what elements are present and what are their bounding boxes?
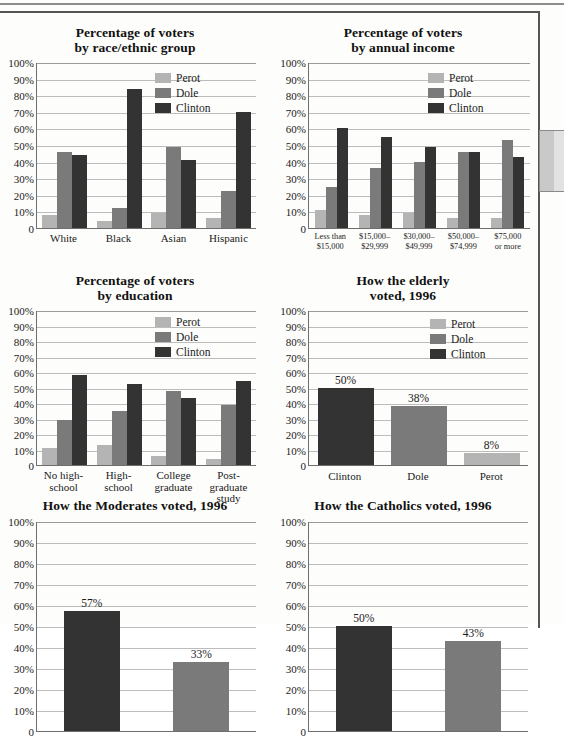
bar-clinton <box>469 152 480 228</box>
y-tick-label: 20% <box>14 685 34 696</box>
bar-clinton <box>381 137 392 228</box>
page-side-tab[interactable] <box>539 130 564 192</box>
y-tick-label: 60% <box>14 601 34 612</box>
legend-label: Perot <box>449 71 473 85</box>
bar-dole: 33% <box>173 662 229 731</box>
y-tick-label: 20% <box>14 430 34 441</box>
chart-title: How the elderlyvoted, 1996 <box>268 273 538 303</box>
chart-title-line-1: Percentage of voters <box>268 25 538 40</box>
y-tick-label: 70% <box>286 107 306 118</box>
bar-perot <box>491 218 502 228</box>
legend-swatch-perot <box>155 317 171 327</box>
chart-body: How the elderlyvoted, 1996100%90%80%70%6… <box>268 273 538 488</box>
bar-value-label: 8% <box>484 439 499 452</box>
y-tick-label: 50% <box>14 622 34 633</box>
bar-series-container: 50%43% <box>309 522 528 731</box>
chart-legend: PerotDoleClinton <box>428 71 484 116</box>
bar-clinton <box>127 89 142 228</box>
legend-item-perot: Perot <box>428 71 484 85</box>
x-tick-label-line: $74,999 <box>441 242 485 252</box>
legend-swatch-dole <box>155 332 171 342</box>
page-border-right <box>538 11 540 628</box>
bar-clinton <box>181 160 196 228</box>
legend-label: Clinton <box>449 101 484 115</box>
legend-swatch-clinton <box>155 347 171 357</box>
bar-group <box>309 63 353 228</box>
plot-area: 100%90%80%70%60%50%40%30%20%10%050%38%8%… <box>268 311 538 466</box>
legend-item-perot: Perot <box>155 71 211 85</box>
y-tick-label: 60% <box>286 601 306 612</box>
bar-perot: 8% <box>464 453 520 465</box>
bar-clinton <box>337 128 348 228</box>
x-tick-label: Clinton <box>308 469 381 483</box>
plot-box <box>36 63 256 229</box>
legend-label: Dole <box>176 330 198 344</box>
bar-perot <box>151 456 166 465</box>
y-tick-label: 0 <box>29 224 35 235</box>
y-axis-ticks: 100%90%80%70%60%50%40%30%20%10%0 <box>0 311 36 466</box>
y-tick-label: 40% <box>14 399 34 410</box>
bar-perot <box>359 215 370 228</box>
plot-box: 57%33% <box>36 522 256 732</box>
y-tick-label: 50% <box>286 383 306 394</box>
chart-title-line-2: by annual income <box>268 40 538 55</box>
y-tick-label: 80% <box>14 559 34 570</box>
legend-swatch-perot <box>430 319 446 329</box>
bar-clinton <box>181 398 196 465</box>
bar-dole <box>502 140 513 228</box>
y-tick-label: 80% <box>286 91 306 102</box>
y-tick-label: 70% <box>14 107 34 118</box>
y-tick-label: 30% <box>286 174 306 185</box>
y-tick-label: 10% <box>286 706 306 717</box>
bar-value-label: 43% <box>463 627 484 640</box>
chart-title: How the Moderates voted, 1996 <box>0 498 270 513</box>
bar-dole <box>166 391 181 465</box>
legend-swatch-dole <box>155 88 171 98</box>
bar-group: 50% <box>309 522 419 731</box>
y-axis-ticks: 100%90%80%70%60%50%40%30%20%10%0 <box>268 311 308 466</box>
y-tick-label: 100% <box>8 58 34 69</box>
bar-value-label: 50% <box>335 374 356 387</box>
bar-value-label: 57% <box>81 597 102 610</box>
chart-title-line-2: voted, 1996 <box>268 288 538 303</box>
legend-swatch-perot <box>155 73 171 83</box>
chart-title-line-1: How the Moderates voted, 1996 <box>0 498 270 513</box>
y-tick-label: 40% <box>286 643 306 654</box>
y-axis-ticks: 100%90%80%70%60%50%40%30%20%10%0 <box>268 522 308 732</box>
y-tick-label: 90% <box>14 74 34 85</box>
bar-clinton: 50% <box>336 626 392 731</box>
y-tick-label: 80% <box>286 337 306 348</box>
legend-item-clinton: Clinton <box>428 101 484 115</box>
y-tick-label: 40% <box>14 643 34 654</box>
bar-clinton: 57% <box>64 611 120 731</box>
x-tick-label-line: or more <box>486 242 530 252</box>
y-tick-label: 50% <box>286 622 306 633</box>
bar-dole: 38% <box>391 406 447 465</box>
x-axis-category-labels: Less than$15,000$15,000–$29,999$30,000–$… <box>308 230 530 251</box>
x-tick-label: $30,000–$49,999 <box>397 230 441 251</box>
bar-dole <box>221 405 236 465</box>
bar-series-container <box>37 311 256 465</box>
x-tick-label: $75,000or more <box>486 230 530 251</box>
x-tick-label-line: High- <box>91 470 146 482</box>
y-tick-label: 60% <box>286 368 306 379</box>
y-tick-label: 20% <box>286 430 306 441</box>
x-tick-label: $15,000–$29,999 <box>352 230 396 251</box>
bar-dole <box>57 420 72 465</box>
bar-perot <box>42 448 57 465</box>
y-tick-label: 100% <box>8 306 34 317</box>
chart-voters-by-income: Percentage of votersby annual income100%… <box>268 25 538 265</box>
bar-dole <box>221 191 236 228</box>
y-tick-label: 70% <box>14 580 34 591</box>
y-tick-label: 60% <box>14 368 34 379</box>
chart-title-line-1: Percentage of voters <box>0 273 270 288</box>
bar-series-container: 57%33% <box>37 522 256 731</box>
y-tick-label: 10% <box>14 207 34 218</box>
bar-clinton <box>72 375 87 465</box>
x-tick-label: Dole <box>381 469 454 483</box>
y-tick-label: 0 <box>301 224 307 235</box>
chart-legend: PerotDoleClinton <box>155 71 211 116</box>
bar-dole <box>458 152 469 228</box>
bar-clinton: 50% <box>318 388 374 466</box>
legend-item-dole: Dole <box>428 86 484 100</box>
